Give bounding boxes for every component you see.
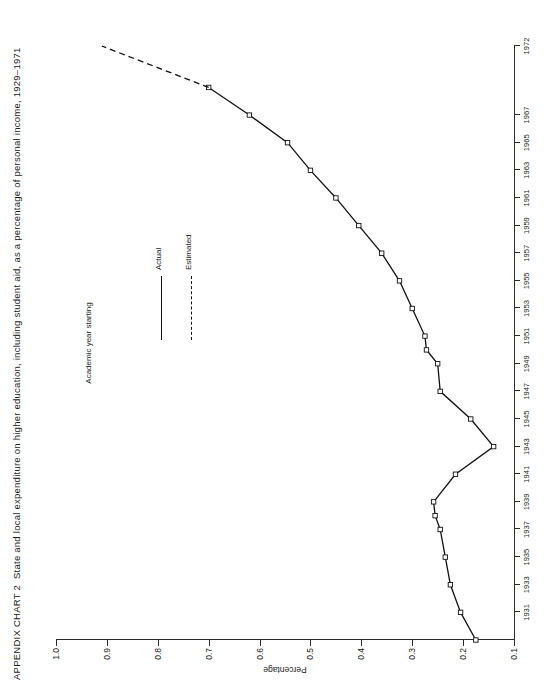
value-tick-label: 0.3 <box>408 648 417 674</box>
category-tick <box>514 197 520 198</box>
data-point-marker <box>438 389 442 393</box>
value-tick-label: 0.2 <box>459 648 468 674</box>
category-tick <box>514 446 520 447</box>
category-tick-label: 1939 <box>523 493 531 510</box>
category-tick <box>514 473 520 474</box>
category-tick-label: 1933 <box>523 576 531 593</box>
value-tick-label: 0.1 <box>510 648 519 674</box>
category-tick <box>514 169 520 170</box>
value-tick-label: 0.9 <box>103 648 112 674</box>
plot-area: Percentage Academic year starting 1.00.9… <box>56 46 514 640</box>
category-tick-label: 1947 <box>523 383 531 400</box>
data-point-marker <box>435 362 439 366</box>
chart-title: APPENDIX CHART 2State and local expendit… <box>10 40 24 680</box>
category-tick-label: 1943 <box>523 438 531 455</box>
category-tick <box>514 529 520 530</box>
category-tick <box>514 611 520 612</box>
category-tick <box>514 556 520 557</box>
dashed-line-icon <box>191 276 192 340</box>
category-tick <box>514 45 520 46</box>
data-lines <box>56 46 514 640</box>
category-tick <box>514 225 520 226</box>
value-tick <box>56 640 57 646</box>
value-tick <box>514 640 515 646</box>
data-point-marker <box>379 251 383 255</box>
category-tick <box>514 280 520 281</box>
data-point-marker <box>334 196 338 200</box>
category-axis-line <box>514 46 515 640</box>
category-tick-label: 1965 <box>523 134 531 151</box>
category-tick-label: 1955 <box>523 272 531 289</box>
value-tick-label: 0.5 <box>306 648 315 674</box>
data-point-marker <box>448 583 452 587</box>
value-tick <box>209 640 210 646</box>
value-tick <box>412 640 413 646</box>
category-tick <box>514 252 520 253</box>
value-tick <box>310 640 311 646</box>
value-tick-label: 1.0 <box>52 648 61 674</box>
category-tick-label: 1949 <box>523 355 531 372</box>
category-tick-label: 1959 <box>523 217 531 234</box>
value-tick <box>463 640 464 646</box>
category-tick-label: 1935 <box>523 549 531 566</box>
category-tick <box>514 418 520 419</box>
data-point-marker <box>431 500 435 504</box>
data-point-marker <box>469 417 473 421</box>
category-tick-label: 1972 <box>523 38 531 55</box>
category-tick <box>514 142 520 143</box>
data-point-marker <box>424 348 428 352</box>
category-tick <box>514 584 520 585</box>
solid-line-icon <box>161 276 162 340</box>
chart-title-lead: APPENDIX CHART 2 <box>11 585 22 680</box>
data-point-marker <box>491 444 495 448</box>
legend-label-estimated: Estimated <box>184 234 193 270</box>
data-point-marker <box>308 168 312 172</box>
value-tick <box>158 640 159 646</box>
value-axis-title: Percentage <box>263 665 306 675</box>
value-tick <box>260 640 261 646</box>
category-tick-label: 1941 <box>523 466 531 483</box>
category-tick-label: 1961 <box>523 190 531 207</box>
value-tick-label: 0.7 <box>205 648 214 674</box>
data-point-marker <box>438 527 442 531</box>
series-line-actual <box>209 87 494 640</box>
value-tick-label: 0.4 <box>357 648 366 674</box>
category-tick-label: 1963 <box>523 162 531 179</box>
value-tick <box>361 640 362 646</box>
data-point-marker <box>410 306 414 310</box>
category-tick-label: 1931 <box>523 604 531 621</box>
category-tick <box>514 114 520 115</box>
category-tick <box>514 390 520 391</box>
category-tick-label: 1951 <box>523 328 531 345</box>
data-point-marker <box>453 472 457 476</box>
category-tick <box>514 335 520 336</box>
category-tick <box>514 363 520 364</box>
data-point-marker <box>474 638 478 642</box>
data-point-marker <box>397 279 401 283</box>
data-point-marker <box>443 555 447 559</box>
category-tick-label: 1937 <box>523 521 531 538</box>
category-tick-label: 1967 <box>523 107 531 124</box>
category-tick <box>514 501 520 502</box>
chart-title-text: State and local expenditure on higher ed… <box>11 47 22 579</box>
data-point-marker <box>357 223 361 227</box>
data-point-marker <box>285 141 289 145</box>
category-tick-label: 1945 <box>523 411 531 428</box>
data-point-marker <box>433 513 437 517</box>
category-tick-label: 1953 <box>523 300 531 317</box>
data-point-marker <box>247 113 251 117</box>
category-tick-label: 1957 <box>523 245 531 262</box>
data-point-marker <box>458 610 462 614</box>
series-line-estimated <box>102 46 209 87</box>
value-tick <box>107 640 108 646</box>
value-tick-label: 0.6 <box>256 648 265 674</box>
value-tick-label: 0.8 <box>154 648 163 674</box>
data-point-marker <box>423 334 427 338</box>
chart-figure: APPENDIX CHART 2State and local expendit… <box>0 0 560 694</box>
category-tick <box>514 307 520 308</box>
legend-label-actual: Actual <box>154 248 163 270</box>
